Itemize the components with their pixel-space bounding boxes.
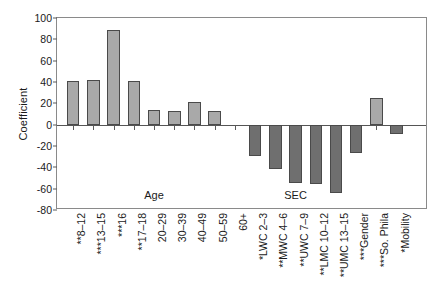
bar xyxy=(107,30,120,125)
y-axis-tick-mark xyxy=(53,82,57,83)
y-axis-tick-mark xyxy=(53,18,57,19)
bar xyxy=(128,81,141,125)
x-axis-tick-label: **LMC 10–12 xyxy=(319,213,330,275)
x-axis-tick-label: **17–18 xyxy=(137,213,148,250)
x-axis-tick-label: **UMC 13–15 xyxy=(339,213,350,277)
bar xyxy=(168,111,181,125)
x-axis-tick-mark xyxy=(114,125,115,130)
y-axis-tick-mark xyxy=(53,167,57,168)
x-axis-tick-label: 50–59 xyxy=(218,213,229,242)
x-axis-tick-label: **UWC 7–9 xyxy=(299,213,310,267)
x-axis-tick-label: *LWC 2–3 xyxy=(258,213,269,260)
x-axis-tick-mark xyxy=(174,125,175,130)
y-axis-tick-label: 0 xyxy=(46,119,52,130)
bar xyxy=(269,125,282,170)
x-axis-tick-label: ***13–15 xyxy=(96,213,107,254)
x-axis-tick-mark xyxy=(235,125,236,130)
x-axis-tick-label: **8–12 xyxy=(76,213,87,245)
y-axis-tick-mark xyxy=(53,146,57,147)
y-axis-tick-label: 100 xyxy=(34,13,52,24)
x-axis-tick-mark xyxy=(194,125,195,130)
x-axis-tick-label: 40–49 xyxy=(197,213,208,242)
group-caption: Age xyxy=(144,189,164,201)
x-axis-tick-label: *Mobility xyxy=(400,213,411,253)
zero-baseline xyxy=(57,125,426,126)
y-axis-tick-label: 60 xyxy=(40,55,52,66)
x-axis-tick-label: 60+ xyxy=(238,213,249,231)
y-axis-tick-label: 20 xyxy=(40,98,52,109)
bar xyxy=(249,125,262,156)
x-axis-tick-mark xyxy=(376,125,377,130)
x-axis-tick-label: ***16 xyxy=(117,213,128,237)
bar xyxy=(188,102,201,124)
bar xyxy=(67,81,80,125)
bar xyxy=(330,125,343,193)
bar xyxy=(350,125,363,154)
y-axis-tick-mark xyxy=(53,60,57,61)
y-axis-tick-label: -60 xyxy=(37,183,52,194)
y-axis-tick-mark xyxy=(53,39,57,40)
bar xyxy=(87,80,100,125)
bar xyxy=(148,110,161,125)
x-axis-tick-mark xyxy=(73,125,74,130)
plot-area: 100806040200-20-40-60-80AgeSEC xyxy=(56,17,427,209)
x-axis-tick-mark xyxy=(93,125,94,130)
bar xyxy=(208,111,221,125)
y-axis-tick-mark xyxy=(53,188,57,189)
y-axis-tick-label: -40 xyxy=(37,162,52,173)
y-axis-tick-mark xyxy=(53,210,57,211)
y-axis-tick-label: -80 xyxy=(37,205,52,216)
bar xyxy=(289,125,302,184)
y-axis-tick-label: 80 xyxy=(40,34,52,45)
x-axis-tick-label: **MWC 4–6 xyxy=(278,213,289,268)
x-axis-tick-mark xyxy=(215,125,216,130)
coefficient-bar-chart: Coefficient 100806040200-20-40-60-80AgeS… xyxy=(0,0,436,300)
x-axis-tick-label: ***So. Phila xyxy=(379,213,390,267)
group-caption: SEC xyxy=(284,189,307,201)
x-axis-tick-mark xyxy=(134,125,135,130)
bar xyxy=(310,125,323,185)
bar xyxy=(370,98,383,125)
x-axis-tick-label: 20–29 xyxy=(157,213,168,242)
y-axis-title: Coefficient xyxy=(17,44,29,184)
y-axis-tick-mark xyxy=(53,103,57,104)
bar xyxy=(390,125,403,135)
x-axis-tick-label: ***Gender xyxy=(359,213,370,260)
y-axis-tick-label: 40 xyxy=(40,77,52,88)
y-axis-tick-mark xyxy=(53,124,57,125)
x-axis-tick-label: 30–39 xyxy=(177,213,188,242)
y-axis-tick-label: -20 xyxy=(37,141,52,152)
x-axis-tick-mark xyxy=(154,125,155,130)
